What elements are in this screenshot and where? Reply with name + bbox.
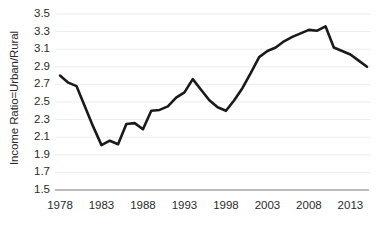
x-tick-label: 1993 [172,199,198,211]
y-tick-label: 2.9 [34,61,50,73]
x-tick-label: 1988 [130,199,156,211]
x-tick-label: 2008 [296,199,322,211]
y-tick-label: 2.5 [34,96,50,108]
y-tick-label: 1.9 [34,149,50,161]
y-tick-label: 2.7 [34,79,50,91]
x-axis-tick-labels: 19781983198819931998200320082013 [55,196,371,218]
y-tick-label: 2.1 [34,131,50,143]
x-tick-label: 1998 [213,199,239,211]
y-tick-label: 1.5 [34,184,50,196]
x-tick-label: 2003 [255,199,281,211]
series-line [60,26,367,145]
y-axis-title: Income Ratio=Urban/Rural [0,0,28,196]
data-series-line [60,26,367,145]
y-tick-label: 3.1 [34,43,50,55]
line-chart: Income Ratio=Urban/Rural 1.51.71.92.12.3… [0,0,379,227]
x-tick-label: 1983 [89,199,115,211]
y-axis-tick-labels: 1.51.71.92.12.32.52.72.93.13.33.5 [28,0,52,196]
y-axis-title-label: Income Ratio=Urban/Rural [8,31,20,165]
plot-area [55,0,371,196]
x-tick-label: 1978 [47,199,73,211]
x-tick-label: 2013 [338,199,364,211]
gridlines [55,14,371,172]
chart-svg [55,0,371,196]
y-tick-label: 1.7 [34,167,50,179]
y-tick-label: 3.3 [34,26,50,38]
y-tick-label: 2.3 [34,114,50,126]
y-tick-label: 3.5 [34,8,50,20]
